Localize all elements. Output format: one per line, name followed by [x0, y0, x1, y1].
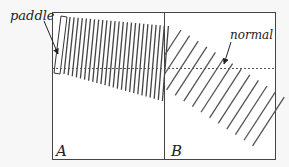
refraction-diagram: paddle normal A B	[0, 0, 289, 167]
region-a-label: A	[54, 142, 67, 160]
region-b-label: B	[170, 142, 182, 160]
normal-label: normal	[230, 28, 273, 42]
paddle-label: paddle	[10, 8, 55, 23]
